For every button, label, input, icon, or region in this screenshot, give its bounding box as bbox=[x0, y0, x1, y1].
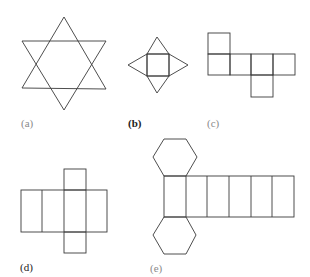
pyramid-face-left bbox=[128, 54, 147, 76]
hexagon-bottom bbox=[153, 217, 196, 254]
hexagon-top bbox=[153, 139, 197, 176]
pyramid-face-bottom bbox=[147, 76, 169, 93]
star-triangle-down bbox=[22, 41, 106, 110]
star-triangle-up bbox=[22, 17, 106, 89]
cube-c-square-top bbox=[208, 33, 230, 54]
cross-vertical-column bbox=[64, 169, 86, 253]
figure-e-hex-prism-net bbox=[153, 139, 294, 254]
cube-c-square-3 bbox=[251, 54, 273, 75]
figure-c-cube-net bbox=[208, 33, 295, 97]
cube-c-square-bottom bbox=[251, 75, 273, 97]
pyramid-face-right bbox=[169, 54, 188, 76]
figures-drawing bbox=[0, 0, 310, 277]
cube-c-square-4 bbox=[273, 54, 295, 75]
pyramid-face-top bbox=[147, 37, 169, 54]
cube-c-square-2 bbox=[230, 54, 251, 75]
figure-d-label: (d) bbox=[20, 261, 33, 273]
figure-e-label: (e) bbox=[150, 262, 162, 274]
cube-c-square-1 bbox=[208, 54, 230, 75]
figure-b-pyramid-net bbox=[128, 37, 188, 93]
figure-a-label: (a) bbox=[21, 117, 33, 129]
figure-a-star bbox=[22, 17, 106, 110]
figure-d-cross-net bbox=[21, 169, 107, 253]
pyramid-base-square bbox=[147, 54, 169, 76]
figure-b-label: (b) bbox=[128, 117, 141, 129]
figure-c-label: (c) bbox=[207, 117, 219, 129]
figure-canvas: (a) (b) (c) (d) (e) bbox=[0, 0, 310, 277]
